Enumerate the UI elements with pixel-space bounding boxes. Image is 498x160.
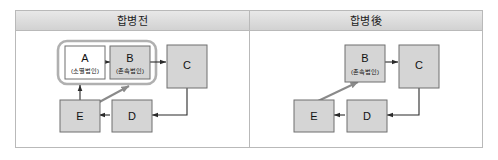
node-C-left-label: C [183,59,191,71]
node-B-right-label: B [361,52,368,64]
node-E-left-label: E [76,110,83,122]
merger-diagram-figure: 합병전 합병後 A (소멸법인) B [0,0,498,160]
node-B-right-sublabel: (존속법인) [351,68,379,76]
edge-E-to-B-right [318,82,358,101]
node-C-right-label: C [415,59,423,71]
edge-C-to-D-left [152,88,187,115]
node-B-left-sublabel: (존속법인) [116,67,144,75]
node-A-left-label: A [81,52,89,64]
edge-C-to-D-right [387,88,419,115]
diagram-canvas: A (소멸법인) B (존속법인) C E D B (존속법인) C E [0,0,498,160]
node-A-left-sublabel: (소멸법인) [71,67,99,74]
node-E-right-label: E [310,110,317,122]
node-B-left-label: B [126,52,133,64]
node-D-right-label: D [363,110,371,122]
node-D-left-label: D [128,110,136,122]
